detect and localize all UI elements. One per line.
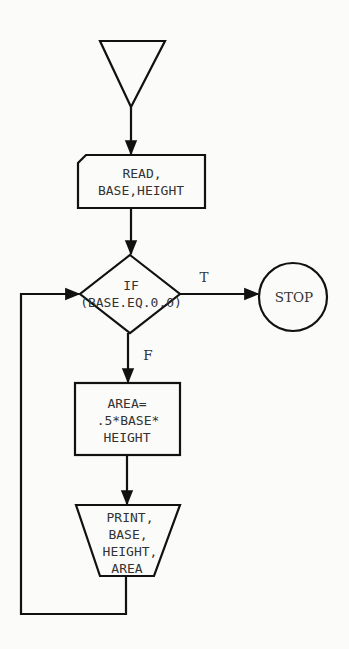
print-label-line-2: BASE, xyxy=(108,527,147,542)
read-label-line-2: BASE,HEIGHT xyxy=(98,183,184,198)
stop-terminal: STOP xyxy=(259,263,327,331)
start-terminal xyxy=(100,41,165,107)
read-input-node: READ, BASE,HEIGHT xyxy=(78,155,205,208)
compute-label-line-2: .5*BASE* xyxy=(97,413,160,428)
false-label: F xyxy=(143,347,152,363)
decision-label-line-1: IF xyxy=(123,278,139,293)
flowchart: READ, BASE,HEIGHT IF (BASE.EQ.0.0) T STO… xyxy=(0,0,349,649)
compute-process-node: AREA= .5*BASE* HEIGHT xyxy=(75,383,180,455)
decision-label-line-2: (BASE.EQ.0.0) xyxy=(80,295,182,310)
compute-label-line-3: HEIGHT xyxy=(104,430,151,445)
decision-node: IF (BASE.EQ.0.0) xyxy=(80,255,182,333)
print-label-line-3: HEIGHT, xyxy=(103,544,158,559)
true-label: T xyxy=(199,269,208,285)
read-label-line-1: READ, xyxy=(122,166,161,181)
print-output-node: PRINT, BASE, HEIGHT, AREA xyxy=(76,505,180,576)
print-label-line-1: PRINT, xyxy=(107,510,154,525)
print-label-line-4: AREA xyxy=(111,561,142,576)
stop-label: STOP xyxy=(275,289,313,305)
compute-label-line-1: AREA= xyxy=(107,396,146,411)
